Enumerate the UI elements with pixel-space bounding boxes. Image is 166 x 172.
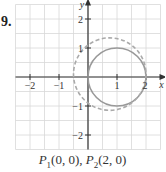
coordinate-plot: −2−112−2−112xy (0, 0, 165, 150)
axes (16, 0, 166, 150)
p1-coords: (0, 0), (51, 152, 82, 167)
p2-label: P (86, 152, 94, 167)
tick-labels: −2−112−2−112xy (25, 0, 165, 141)
y-tick-label: 2 (78, 14, 83, 25)
x-tick-label: 1 (115, 80, 120, 91)
y-axis-arrow-icon (85, 0, 91, 6)
p2-coords: (2, 0) (98, 152, 126, 167)
y-tick-label: 1 (78, 43, 83, 54)
y-tick-label: −2 (72, 130, 83, 141)
p1-label: P (39, 152, 47, 167)
caption: P1(0, 0), P2(2, 0) (0, 152, 165, 170)
x-axis-label: x (158, 79, 164, 90)
y-axis-label: y (79, 0, 85, 10)
x-tick-label: 2 (143, 80, 148, 91)
x-tick-label: −2 (25, 80, 36, 91)
x-tick-label: −1 (54, 80, 65, 91)
y-tick-label: −1 (72, 101, 83, 112)
curves (74, 38, 147, 111)
